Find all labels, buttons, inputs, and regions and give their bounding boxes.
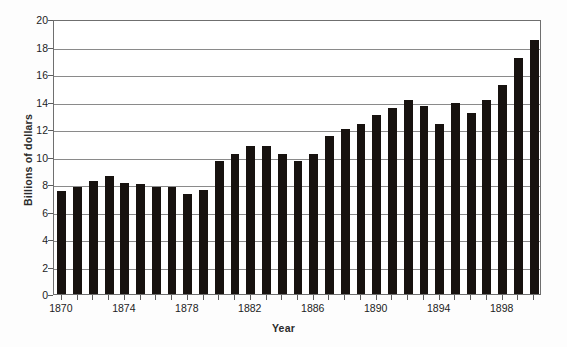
bar (73, 187, 82, 294)
x-tick-label: 1894 (409, 302, 469, 314)
y-tick-mark (48, 75, 53, 76)
y-tick-label: 12 (8, 124, 48, 136)
x-tick-mark (376, 295, 377, 300)
x-tick-mark (391, 295, 392, 300)
x-tick-mark (108, 295, 109, 300)
x-tick-mark (344, 295, 345, 300)
y-tick-mark (48, 130, 53, 131)
x-tick-mark (407, 295, 408, 300)
bar (120, 183, 129, 294)
x-tick-mark (517, 295, 518, 300)
bar (136, 184, 145, 294)
x-tick-label: 1898 (472, 302, 532, 314)
y-tick-mark (48, 185, 53, 186)
y-tick-mark (48, 240, 53, 241)
x-tick-label: 1890 (346, 302, 406, 314)
bar (89, 181, 98, 294)
bar (57, 191, 66, 294)
gridline (54, 104, 540, 105)
x-tick-mark (454, 295, 455, 300)
x-tick-mark (533, 295, 534, 300)
bar (168, 187, 177, 294)
x-tick-mark (313, 295, 314, 300)
bar (215, 161, 224, 294)
bar (404, 100, 413, 294)
bar (231, 154, 240, 294)
y-tick-mark (48, 103, 53, 104)
y-tick-mark (48, 295, 53, 296)
y-tick-label: 20 (8, 14, 48, 26)
y-tick-label: 8 (8, 179, 48, 191)
x-tick-mark (486, 295, 487, 300)
bar (498, 85, 507, 294)
y-tick-label: 14 (8, 97, 48, 109)
bar (372, 115, 381, 294)
x-tick-mark (470, 295, 471, 300)
x-tick-mark (92, 295, 93, 300)
bar (482, 100, 491, 294)
x-tick-label: 1870 (31, 302, 91, 314)
plot-area (53, 20, 541, 295)
bar (325, 136, 334, 294)
x-tick-label: 1886 (283, 302, 343, 314)
y-tick-mark (48, 48, 53, 49)
bar (105, 176, 114, 294)
x-tick-mark (155, 295, 156, 300)
x-tick-mark (187, 295, 188, 300)
bar (530, 40, 539, 294)
x-tick-mark (203, 295, 204, 300)
bar (199, 190, 208, 295)
x-tick-mark (360, 295, 361, 300)
x-tick-mark (77, 295, 78, 300)
x-tick-label: 1874 (94, 302, 154, 314)
bar (451, 103, 460, 294)
x-tick-mark (423, 295, 424, 300)
x-tick-mark (502, 295, 503, 300)
x-tick-mark (234, 295, 235, 300)
bar (420, 106, 429, 294)
x-tick-label: 1878 (157, 302, 217, 314)
y-tick-label: 10 (8, 152, 48, 164)
x-tick-mark (171, 295, 172, 300)
x-tick-mark (328, 295, 329, 300)
bar (278, 154, 287, 294)
bar (262, 146, 271, 295)
x-tick-mark (218, 295, 219, 300)
x-tick-mark (140, 295, 141, 300)
y-tick-label: 6 (8, 207, 48, 219)
x-tick-label: 1882 (220, 302, 280, 314)
y-tick-mark (48, 20, 53, 21)
gridline (54, 49, 540, 50)
x-tick-mark (124, 295, 125, 300)
x-tick-mark (297, 295, 298, 300)
bar (388, 108, 397, 294)
x-tick-mark (281, 295, 282, 300)
bar (341, 129, 350, 294)
y-tick-label: 2 (8, 262, 48, 274)
x-tick-mark (439, 295, 440, 300)
bar (183, 194, 192, 294)
gridline (54, 76, 540, 77)
bar (294, 161, 303, 294)
chart-figure: Billions of dollars 02468101214161820 18… (0, 0, 567, 347)
bar (246, 146, 255, 295)
bar (152, 187, 161, 294)
bar (309, 154, 318, 294)
bar (467, 113, 476, 295)
y-tick-mark (48, 158, 53, 159)
y-tick-label: 0 (8, 289, 48, 301)
x-tick-mark (61, 295, 62, 300)
x-axis-title: Year (0, 322, 567, 334)
x-tick-mark (250, 295, 251, 300)
bar (435, 124, 444, 295)
y-tick-label: 18 (8, 42, 48, 54)
y-tick-label: 4 (8, 234, 48, 246)
y-tick-mark (48, 268, 53, 269)
bar (357, 124, 366, 295)
y-tick-label: 16 (8, 69, 48, 81)
bar (514, 58, 523, 295)
y-tick-mark (48, 213, 53, 214)
x-tick-mark (266, 295, 267, 300)
